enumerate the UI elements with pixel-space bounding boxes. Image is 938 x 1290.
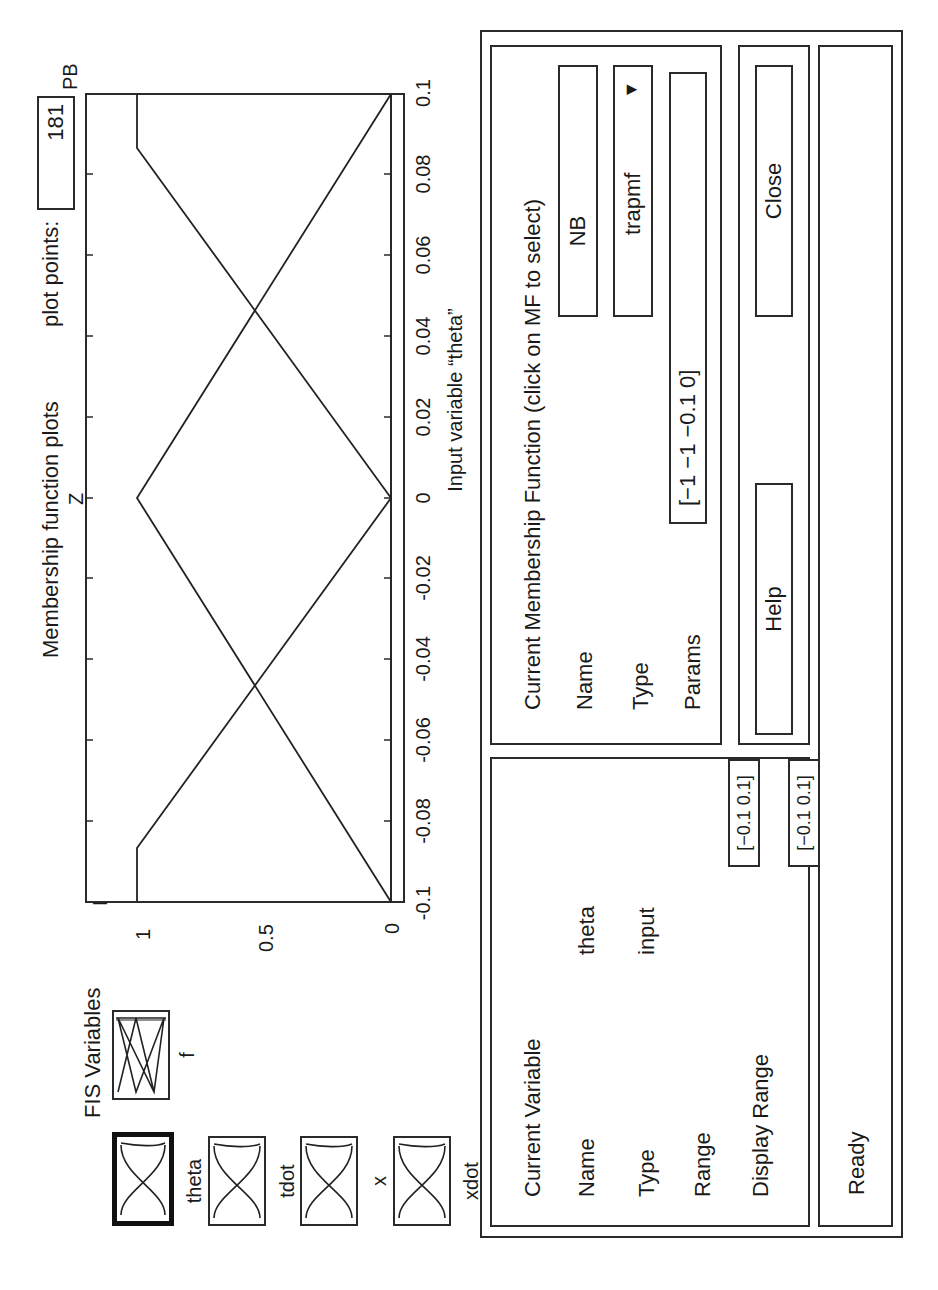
variable-theta-label: theta — [183, 1136, 206, 1226]
variable-xdot-button[interactable] — [393, 1136, 451, 1226]
triangular-mf-icon — [114, 1012, 168, 1098]
mf-type-label: Type — [630, 662, 652, 710]
plot-points-value: 181 — [43, 104, 69, 141]
x-axis-label: Input variable “theta” — [445, 200, 465, 600]
cv-name-label: Name — [576, 1138, 598, 1197]
variable-x-button[interactable] — [300, 1136, 358, 1226]
current-mf-title: Current Membership Function (click on MF… — [522, 199, 544, 710]
cv-range-label: Range — [692, 1132, 714, 1197]
y-tick-1: 1 — [133, 929, 153, 940]
current-variable-title: Current Variable — [522, 1038, 544, 1197]
display-range-input[interactable]: [−0.1 0.1] — [788, 759, 820, 867]
y-tick-0-5: 0.5 — [256, 924, 276, 952]
dropdown-arrow-icon: ▼ — [621, 81, 642, 99]
variable-f-label: f — [176, 1010, 199, 1100]
variable-tdot-label: tdot — [276, 1136, 299, 1226]
mf-name-label: Name — [574, 651, 596, 710]
variable-f-button[interactable] — [112, 1010, 170, 1100]
status-bar: Ready — [818, 45, 893, 1227]
mf-name-input[interactable]: NB — [558, 65, 598, 317]
variable-theta-button[interactable] — [112, 1132, 174, 1226]
plot-points-input[interactable]: 181 — [37, 96, 75, 210]
mf-label-pb: PB — [60, 63, 80, 90]
mf-editor-window: FIS Variables theta tdot x xdot f Membe — [0, 0, 938, 1290]
gaussian-mf-icon — [395, 1138, 449, 1224]
gaussian-mf-icon — [210, 1138, 264, 1224]
mf-params-input[interactable]: [−1 −1 −0.1 0] — [669, 72, 707, 524]
fis-variables-title: FIS Variables — [82, 988, 104, 1118]
variable-tdot-button[interactable] — [208, 1136, 266, 1226]
cv-type-value: input — [636, 907, 658, 955]
x-tick-labels: -0.1 -0.08 -0.06 -0.04 -0.02 0 0.02 0.04… — [413, 93, 439, 903]
plot-title: Membership function plots — [40, 401, 62, 658]
gaussian-mf-icon — [302, 1138, 356, 1224]
mf-label-z: Z — [66, 493, 86, 505]
help-button[interactable]: Help — [755, 483, 793, 735]
cv-type-label: Type — [636, 1149, 658, 1197]
gaussian-mf-icon — [117, 1137, 169, 1221]
range-input[interactable]: [−0.1 0.1] — [728, 759, 760, 867]
status-text: Ready — [846, 1131, 868, 1195]
mf-type-dropdown[interactable]: trapmf ▼ — [613, 65, 653, 317]
variable-x-label: x — [368, 1136, 391, 1226]
y-tick-0: 0 — [382, 923, 402, 934]
current-variable-panel: Current Variable Name theta Type input R… — [490, 757, 810, 1227]
cv-name-value: theta — [576, 906, 598, 955]
mf-plot-axes[interactable] — [85, 93, 405, 903]
mf-params-label: Params — [682, 634, 704, 710]
plot-points-label: plot points: — [40, 221, 62, 327]
cv-display-range-label: Display Range — [750, 1054, 772, 1197]
close-button[interactable]: Close — [755, 65, 793, 317]
